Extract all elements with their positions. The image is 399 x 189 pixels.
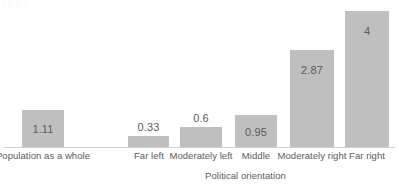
bar-chart: 1.11 0.33 0.6 0.95 2.87 4 Population as … xyxy=(0,0,399,189)
x-axis-line xyxy=(4,147,395,148)
bar-value-far-left: 0.33 xyxy=(128,121,169,133)
bar-value-population-as-a-whole: 1.11 xyxy=(22,123,64,135)
bar-value-moderately-left: 0.6 xyxy=(180,112,222,124)
bar-value-far-right: 4 xyxy=(345,25,389,37)
plot-area: 1.11 0.33 0.6 0.95 2.87 4 xyxy=(0,0,399,148)
tick-label-population-as-a-whole: Population as a whole xyxy=(0,150,100,161)
bar-far-left xyxy=(128,136,169,147)
bar-value-middle: 0.95 xyxy=(235,126,277,138)
x-axis-title: Political orientation xyxy=(0,170,399,181)
x-axis-title-text: Political orientation xyxy=(205,170,286,181)
tick-label-far-right: Far right xyxy=(337,150,397,161)
bar-value-moderately-right: 2.87 xyxy=(290,64,334,76)
x-axis-tick-labels: Population as a whole Far left Moderatel… xyxy=(0,149,399,165)
bar-moderately-left xyxy=(180,127,222,147)
